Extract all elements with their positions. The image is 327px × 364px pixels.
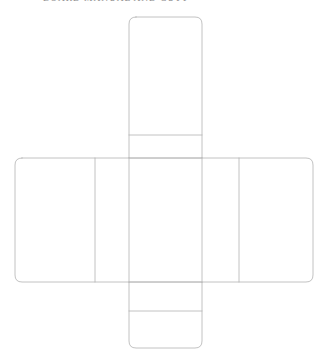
- net-outline-group: [15, 17, 313, 348]
- box-net-drawing: [0, 0, 327, 364]
- diagram-canvas: BOARD MANUAL AND CUTT: [0, 0, 327, 364]
- horizontal-band-outline: [15, 158, 313, 282]
